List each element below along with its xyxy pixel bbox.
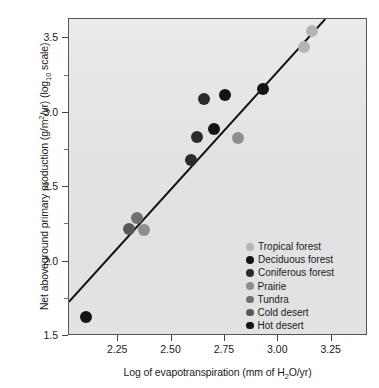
data-point (191, 131, 203, 143)
scatter-plot-figure: Net aboveground primary production (g/m2… (0, 0, 379, 388)
data-point (80, 311, 92, 323)
y-axis-tick-label: 1.5 (18, 329, 58, 341)
legend-item-label: Tropical forest (258, 240, 321, 253)
x-axis-tick-label: 2.50 (146, 343, 196, 355)
y-axis-title: Net aboveground primary production (g/m2… (37, 11, 54, 341)
data-point (198, 93, 210, 105)
legend-marker-icon (246, 309, 254, 317)
legend-marker-icon (246, 269, 254, 277)
x-axis-tick-label: 3.25 (306, 343, 356, 355)
legend-marker-icon (246, 243, 254, 251)
legend-item-label: Tundra (258, 293, 289, 306)
legend-item: Tropical forest (246, 240, 334, 253)
y-axis-tick (62, 335, 68, 336)
data-point (123, 223, 135, 235)
data-point (208, 123, 220, 135)
data-point (138, 224, 150, 236)
legend-marker-icon (246, 296, 254, 304)
x-axis-title: Log of evapotranspiration (mm of H2O/yr) (68, 366, 367, 381)
legend-marker-icon (246, 282, 254, 290)
x-axis-tick-label: 2.75 (199, 343, 249, 355)
x-axis-tick (117, 335, 118, 341)
y-axis-title-subscript: 10 (44, 73, 53, 81)
data-point (306, 25, 318, 37)
data-point (185, 154, 197, 166)
x-axis-title-text-b: O/yr) (289, 366, 312, 378)
legend-item: Coniferous forest (246, 266, 334, 279)
legend-item-label: Hot desert (258, 319, 304, 332)
legend-item: Prairie (246, 280, 334, 293)
chart-legend: Tropical forestDeciduous forestConiferou… (246, 240, 334, 332)
x-axis-title-text-a: Log of evapotranspiration (mm of H (123, 366, 284, 378)
data-point (131, 212, 143, 224)
data-point (257, 83, 269, 95)
legend-marker-icon (246, 256, 254, 264)
legend-item: Deciduous forest (246, 253, 334, 266)
legend-item: Hot desert (246, 319, 334, 332)
y-axis-tick-label: 3.5 (18, 31, 58, 43)
data-point (219, 89, 231, 101)
y-axis-title-text-c: scale) (38, 43, 50, 73)
legend-item-label: Coniferous forest (258, 266, 334, 279)
legend-item-label: Prairie (258, 280, 287, 293)
legend-item: Cold desert (246, 306, 334, 319)
y-axis-tick-label: 3.0 (18, 106, 58, 118)
x-axis-tick (224, 335, 225, 341)
y-axis-tick-label: 2.5 (18, 180, 58, 192)
data-point (298, 41, 310, 53)
legend-item-label: Cold desert (258, 306, 309, 319)
legend-item: Tundra (246, 293, 334, 306)
x-axis-tick (331, 335, 332, 341)
x-axis-tick-label: 2.25 (92, 343, 142, 355)
y-axis-tick-label: 2.0 (18, 255, 58, 267)
data-point (232, 132, 244, 144)
legend-marker-icon (246, 322, 254, 330)
x-axis-tick-label: 3.00 (252, 343, 302, 355)
legend-item-label: Deciduous forest (258, 253, 333, 266)
x-axis-tick (277, 335, 278, 341)
x-axis-tick (171, 335, 172, 341)
y-axis-title-text-a: Net aboveground primary production (g/m (38, 120, 50, 310)
